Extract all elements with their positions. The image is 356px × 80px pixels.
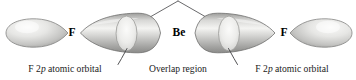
caption-right-suffix: atomic orbital	[273, 63, 329, 74]
overlap-region-left	[116, 16, 137, 51]
f-2p-orbital-left	[6, 19, 68, 47]
atom-label-beryllium: Be	[173, 27, 186, 39]
overlap-region-right	[219, 16, 240, 51]
caption-overlap-region: Overlap region	[149, 64, 207, 74]
f-2p-orbital-right	[290, 19, 352, 47]
atom-label-fluorine-right: F	[280, 27, 287, 39]
caption-left-prefix: F 2	[28, 63, 41, 74]
caption-left-orbital: F 2p atomic orbital	[28, 64, 101, 74]
orbital-overlap-diagram: F Be F F 2p atomic orbital Overlap regio…	[0, 0, 356, 80]
caption-right-prefix: F 2	[255, 63, 268, 74]
caption-left-suffix: atomic orbital	[46, 63, 102, 74]
atom-label-fluorine-left: F	[68, 27, 75, 39]
caption-right-orbital: F 2p atomic orbital	[255, 64, 328, 74]
